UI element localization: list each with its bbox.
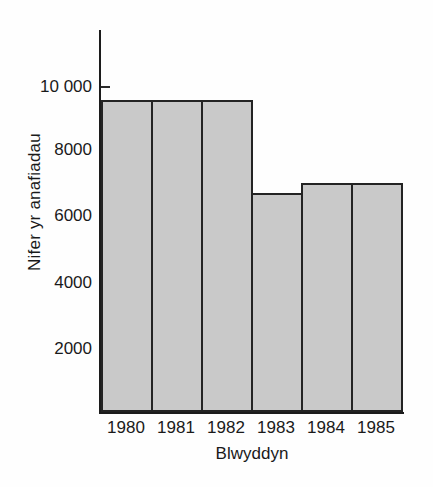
- x-axis-tick-labels: 1980 1981 1982 1983 1984 1985: [101, 417, 403, 441]
- bar-1985: [351, 183, 403, 412]
- x-tick-label-1980: 1980: [101, 417, 151, 439]
- y-tick-label-2000: 2000: [8, 340, 92, 357]
- bar-1981: [151, 100, 203, 412]
- bar-1982: [201, 100, 253, 412]
- x-tick-label-1984: 1984: [301, 417, 351, 439]
- x-axis-title: Blwyddyn: [101, 443, 403, 465]
- bar-chart-figure: Nifer yr anafiadau 2000 4000 6000 8000 1…: [0, 0, 433, 487]
- y-tick-label-4000: 4000: [8, 274, 92, 291]
- bar-1980: [101, 100, 153, 412]
- bar-1983: [251, 193, 303, 412]
- x-tick-label-1983: 1983: [251, 417, 301, 439]
- y-axis-tick-labels: 2000 4000 6000 8000 10 000: [8, 0, 92, 487]
- y-tick-label-8000: 8000: [8, 141, 92, 158]
- x-tick-label-1982: 1982: [201, 417, 251, 439]
- plot-area: [101, 30, 403, 412]
- x-axis-line: [99, 412, 404, 414]
- x-tick-label-1985: 1985: [351, 417, 401, 439]
- y-tick-label-10000: 10 000: [8, 78, 92, 95]
- x-tick-label-1981: 1981: [151, 417, 201, 439]
- y-tick-label-6000: 6000: [8, 207, 92, 224]
- bar-1984: [301, 183, 353, 412]
